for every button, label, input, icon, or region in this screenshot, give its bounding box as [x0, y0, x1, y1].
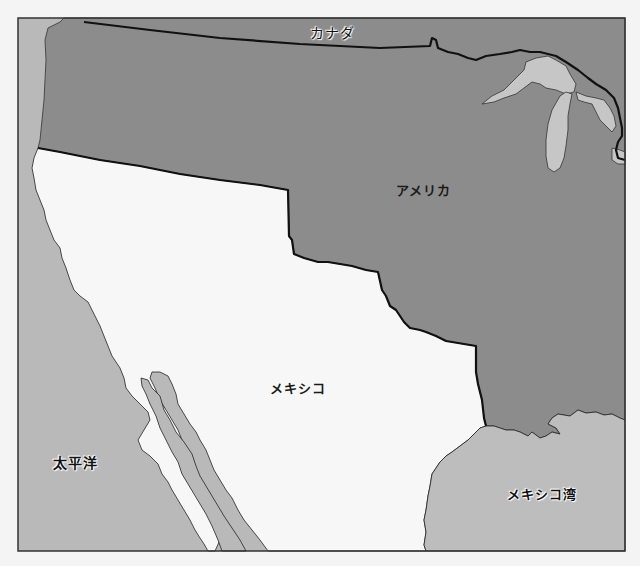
label-canada: カナダ: [310, 22, 355, 42]
label-gulf-of-mexico: メキシコ湾: [507, 484, 577, 503]
label-pacific-ocean: 太平洋: [53, 452, 98, 472]
map-canvas: [0, 0, 640, 566]
map: カナダ アメリカ メキシコ 太平洋 メキシコ湾: [0, 0, 640, 566]
label-mexico: メキシコ: [270, 378, 326, 397]
label-usa: アメリカ: [396, 180, 451, 199]
